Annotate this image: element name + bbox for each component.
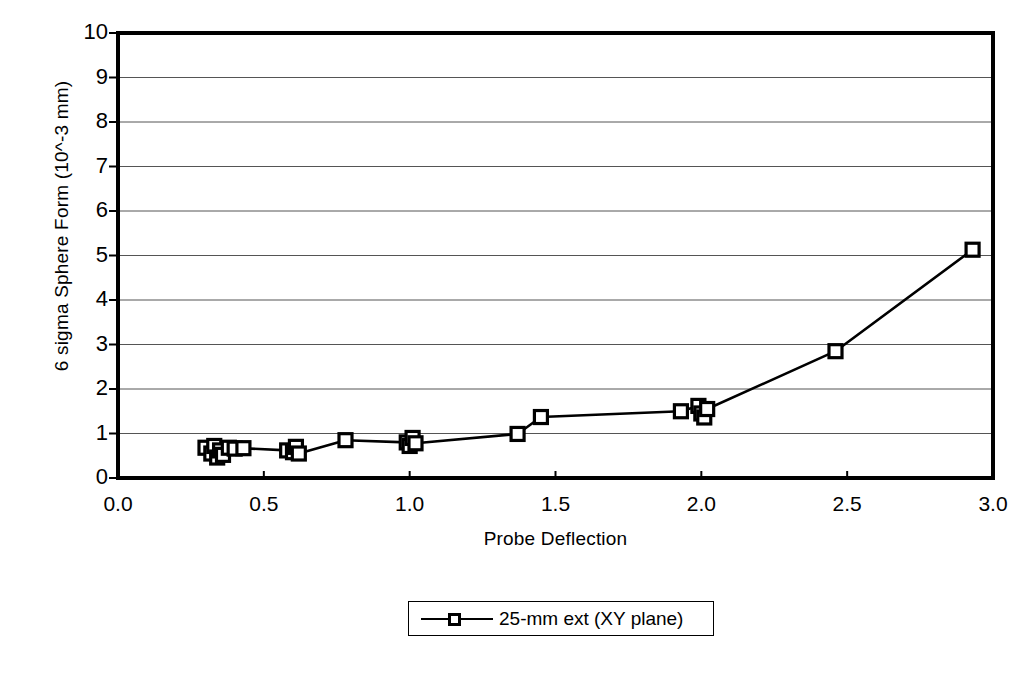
data-point-marker (292, 447, 305, 460)
data-point-marker (966, 243, 979, 256)
data-point-marker (237, 442, 250, 455)
data-point-marker (339, 434, 352, 447)
legend-entry: 25-mm ext (XY plane) (409, 608, 683, 630)
data-point-marker (534, 411, 547, 424)
series-line (206, 250, 973, 458)
data-point-marker (409, 437, 422, 450)
legend-label: 25-mm ext (XY plane) (493, 608, 683, 630)
data-point-marker (701, 403, 714, 416)
chart-figure: 6 sigma Sphere Form (10^-3 mm) 012345678… (0, 0, 1031, 682)
data-point-marker (674, 405, 687, 418)
legend-marker-icon (421, 609, 493, 629)
chart-legend: 25-mm ext (XY plane) (408, 601, 714, 636)
data-point-marker (511, 427, 524, 440)
data-point-marker (829, 345, 842, 358)
plot-area (0, 0, 1031, 682)
